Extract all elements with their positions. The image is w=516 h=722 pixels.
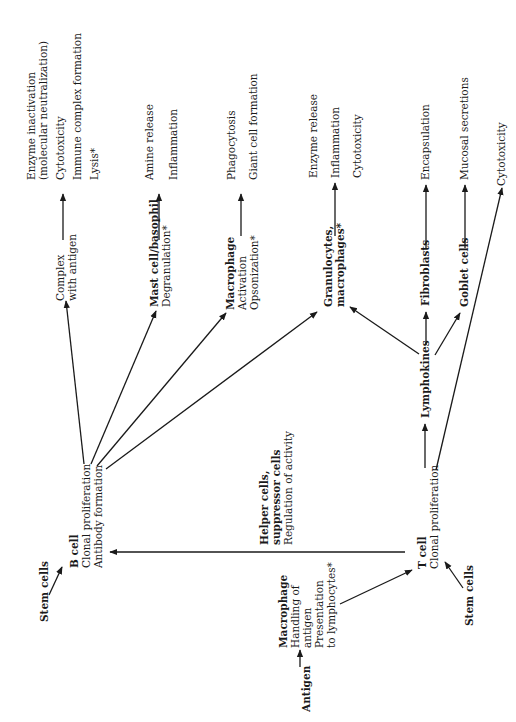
node-antigen: Antigen xyxy=(300,666,312,712)
text-inflammation: Inflammation xyxy=(167,104,179,180)
arrow-lymphokines-to-goblet xyxy=(435,313,460,355)
node-macrophage-t: Macrophage Handling of antigen Presentat… xyxy=(277,562,337,648)
text-encapsulation: Encapsulation xyxy=(419,104,431,180)
text-t-cell: T cell xyxy=(416,465,428,569)
text-mast-cell-basophil: Mast cell/basophil xyxy=(148,199,160,307)
node-complex: Complex with antigen xyxy=(54,234,78,301)
node-stem-cells-b: Stem cells xyxy=(38,561,50,622)
text-macrophage: Macrophage xyxy=(277,562,289,648)
text-antibody-formation: Antibody formation xyxy=(92,464,104,568)
arrow-bcell-to-mast xyxy=(91,311,156,464)
text-granulocytes: Granulocytes, xyxy=(322,223,334,307)
text-cytotoxicity: Cytotoxicity xyxy=(495,122,507,186)
node-cytotoxicity-t: Cytotoxicity xyxy=(495,122,507,186)
text-fibroblasts: Fibroblasts xyxy=(419,240,431,306)
arrow-stem-to-bcell xyxy=(49,567,62,595)
text-macrophage: Macrophage xyxy=(224,235,236,310)
text-regulation-of-activity: Regulation of activity xyxy=(282,431,294,545)
text-enzyme-release: Enzyme release xyxy=(307,94,319,178)
text-with-antigen: with antigen xyxy=(66,234,78,301)
text-helper-cells: Helper cells, xyxy=(258,431,270,545)
text-activation: Activation xyxy=(236,235,248,310)
text-macrophages: macrophages* xyxy=(334,223,346,307)
text-amine-release: Amine release xyxy=(143,104,155,180)
node-helper-cells: Helper cells, suppressor cells Regulatio… xyxy=(258,431,294,545)
text-mucosal-secretions: Mucosal secretions xyxy=(458,77,470,180)
text-stem-cells: Stem cells xyxy=(463,565,475,626)
node-outcomes-macrophage: Phagocytosis Giant cell formation xyxy=(225,73,259,180)
text-phagocytosis: Phagocytosis xyxy=(225,73,237,180)
arrow-macrophage-to-tcell xyxy=(340,570,412,604)
node-macrophage-b: Macrophage Activation Opsonization* xyxy=(224,235,260,310)
text-opsonization: Opsonization* xyxy=(248,235,260,310)
text-clonal-proliferation: Clonal proliferation xyxy=(428,465,440,569)
text-stem-cells: Stem cells xyxy=(38,561,50,622)
node-fibroblasts: Fibroblasts xyxy=(419,240,431,306)
arrow-lymphokines-to-granulocytes xyxy=(350,307,419,354)
text-molecular-neutralization: (molecular neutralization) xyxy=(37,33,49,180)
text-b-cell: B cell xyxy=(68,464,80,568)
node-outcomes-granulocytes: Enzyme release Inflammation Cytotoxicity xyxy=(307,94,363,178)
text-giant-cell-formation: Giant cell formation xyxy=(247,73,259,180)
arrow-bcell-to-complex xyxy=(66,301,84,464)
node-t-cell: T cell Clonal proliferation xyxy=(416,465,440,569)
node-outcomes-mast: Amine release Inflammation xyxy=(143,104,179,180)
node-goblet-cells: Goblet cells xyxy=(458,238,470,307)
text-enzyme-inactivation: Enzyme inactivation xyxy=(25,33,37,180)
text-inflammation: Inflammation xyxy=(329,94,341,178)
text-goblet-cells: Goblet cells xyxy=(458,238,470,307)
node-outcomes-complex: Enzyme inactivation (molecular neutraliz… xyxy=(25,33,100,180)
text-antigen-input: Antigen xyxy=(300,666,312,712)
arrow-stem-to-tcell xyxy=(445,562,463,588)
node-mast-cell: Mast cell/basophil Degranulation* xyxy=(148,199,172,307)
text-lysis: Lysis* xyxy=(88,33,100,180)
text-clonal-proliferation: Clonal proliferation xyxy=(80,464,92,568)
text-presentation: Presentation xyxy=(313,562,325,648)
text-cytotoxicity: Cytotoxicity xyxy=(351,94,363,178)
text-cytotoxicity: Cytotoxicity xyxy=(54,33,66,180)
arrow-tcell-to-cytotoxicity xyxy=(436,188,502,470)
node-stem-cells-t: Stem cells xyxy=(463,565,475,626)
text-suppressor-cells: suppressor cells xyxy=(270,431,282,545)
node-lymphokines: Lymphokines xyxy=(419,340,431,418)
node-granulocytes: Granulocytes, macrophages* xyxy=(322,223,346,307)
text-immune-complex-formation: Immune complex formation xyxy=(71,33,83,180)
node-b-cell: B cell Clonal proliferation Antibody for… xyxy=(68,464,104,568)
text-lymphokines: Lymphokines xyxy=(419,340,431,418)
text-degranulation: Degranulation* xyxy=(160,199,172,307)
node-mucosal-secretions: Mucosal secretions xyxy=(458,77,470,180)
text-handling-of: Handling of xyxy=(289,562,301,648)
text-antigen: antigen xyxy=(301,562,313,648)
arrow-bcell-to-macrophage xyxy=(97,313,226,466)
node-encapsulation: Encapsulation xyxy=(419,104,431,180)
text-to-lymphocytes: to lymphocytes* xyxy=(325,562,337,648)
text-complex: Complex xyxy=(54,234,66,301)
